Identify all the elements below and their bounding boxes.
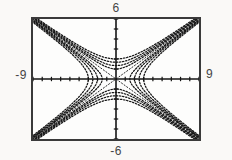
graph-canvas [33, 19, 199, 139]
window-label-ymax: 6 [31, 1, 201, 15]
window-label-ymin: -6 [31, 144, 201, 158]
window-label-xmax: 9 [206, 67, 232, 81]
viewing-window-frame [31, 17, 201, 141]
window-label-xmin: -9 [0, 68, 27, 82]
hyperbola-family-figure: 6 -9 9 -6 [0, 0, 232, 160]
